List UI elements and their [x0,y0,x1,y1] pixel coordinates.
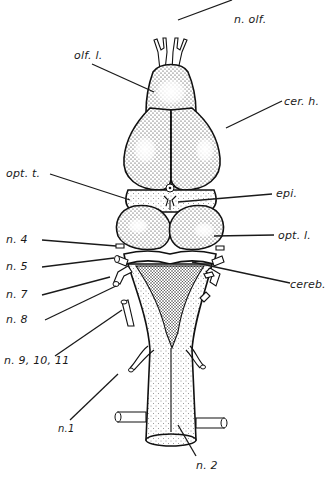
label-nerve-4: n. 4 [6,234,28,245]
label-epiphysis: epi. [276,188,297,199]
label-nerve-8: n. 8 [6,314,28,325]
label-nerve-5: n. 5 [6,261,28,272]
label-nerve-7: n. 7 [6,289,28,300]
olfactory-lobe [146,65,196,113]
label-optic-lobe: opt. l. [278,230,311,241]
label-nerves-9-10-11: n. 9, 10, 11 [4,355,69,366]
label-optic-thalamus: opt. t. [6,168,40,179]
label-cerebral-hemisphere: cer. h. [284,96,319,107]
label-spinal-nerve-2: n. 2 [196,460,218,471]
cerebellum [124,251,216,264]
label-olfactory-nerve: n. olf. [234,14,266,25]
label-olfactory-lobe: olf. l. [74,50,102,61]
label-cerebellum: cereb. [290,279,326,290]
cerebral-hemispheres [124,108,220,190]
label-spinal-nerve-1: n.1 [58,424,74,434]
